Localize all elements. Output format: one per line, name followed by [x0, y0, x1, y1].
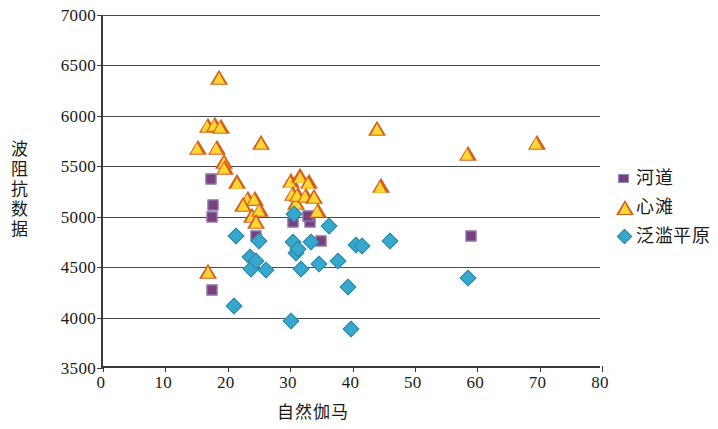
data-point-diamond [225, 298, 242, 315]
x-axis-tick-label: 50 [388, 374, 438, 391]
x-axis-tick [165, 366, 166, 372]
y-axis-tick-label: 6500 [26, 57, 96, 74]
x-axis-tick [290, 366, 291, 372]
square-marker-icon-shape [618, 174, 629, 183]
y-axis-title-char: 波 [8, 140, 30, 160]
data-point-triangle [372, 178, 390, 193]
data-point-triangle [199, 264, 217, 279]
y-axis-tick [97, 15, 103, 16]
y-axis-title-char: 数 [8, 200, 30, 220]
y-axis-tick-label: 5000 [26, 208, 96, 225]
x-axis-tick [228, 366, 229, 372]
x-axis-tick-label: 0 [76, 374, 126, 391]
y-axis-tick-label: 5500 [26, 158, 96, 175]
legend-item-label: 心滩 [636, 198, 673, 216]
y-axis-tick-label: 4500 [26, 259, 96, 276]
data-point-diamond [343, 320, 360, 337]
square-marker-icon [616, 169, 634, 187]
data-point-triangle [228, 174, 246, 189]
legend-item-1[interactable]: 心滩 [616, 192, 716, 221]
data-point-square [205, 174, 216, 185]
scatter-chart: 70006500600055005000450040003500 波阻抗数据 0… [0, 0, 718, 429]
data-point-triangle [216, 160, 234, 175]
x-axis-tick [477, 366, 478, 372]
data-point-square [206, 285, 217, 296]
data-point-square [207, 211, 218, 222]
y-axis-tick [97, 116, 103, 117]
x-axis-tick-label: 60 [450, 374, 500, 391]
gridline [103, 318, 600, 319]
gridline [103, 116, 600, 117]
x-axis-title: 自然伽马 [0, 398, 718, 423]
x-axis-title-text: 自然伽马 [277, 398, 349, 423]
data-point-triangle [459, 146, 477, 161]
data-point-triangle [252, 135, 270, 150]
gridline [103, 217, 600, 218]
x-axis-tick [602, 366, 603, 372]
y-axis-tick-label: 7000 [26, 7, 96, 24]
data-point-triangle [210, 69, 228, 84]
diamond-marker-icon-shape [617, 228, 633, 244]
data-point-diamond [321, 217, 338, 234]
x-axis-tick [353, 366, 354, 372]
data-point-triangle [305, 188, 323, 203]
data-point-triangle [247, 214, 265, 229]
data-point-square [207, 199, 218, 210]
y-axis-tick [97, 65, 103, 66]
legend-item-0[interactable]: 河道 [616, 163, 716, 192]
gridline [103, 65, 600, 66]
diamond-marker-icon [616, 227, 634, 245]
data-point-diamond [381, 232, 398, 249]
y-axis-tick-label: 6000 [26, 107, 96, 124]
x-axis-tick [103, 366, 104, 372]
legend-item-2[interactable]: 泛滥平原 [616, 221, 716, 250]
triangle-marker-icon [616, 198, 634, 216]
y-axis-title-char: 据 [8, 220, 30, 240]
plot-area [101, 15, 600, 368]
gridline [103, 166, 600, 167]
x-axis-tick-label: 40 [326, 374, 376, 391]
chart-legend: 河道心滩泛滥平原 [616, 163, 716, 250]
data-point-triangle [208, 140, 226, 155]
x-axis-tick-label: 10 [138, 374, 188, 391]
x-axis-tick-label: 20 [201, 374, 251, 391]
y-axis-tick [97, 217, 103, 218]
y-axis-title-char: 抗 [8, 180, 30, 200]
data-point-triangle [368, 121, 386, 136]
y-axis-title: 波阻抗数据 [8, 140, 30, 240]
data-point-square [466, 231, 477, 242]
y-axis-tick [97, 318, 103, 319]
data-point-diamond [459, 270, 476, 287]
gridline [103, 267, 600, 268]
data-point-triangle [528, 135, 546, 150]
data-point-triangle [212, 119, 230, 134]
triangle-marker-icon-shape [616, 200, 634, 215]
legend-item-label: 泛滥平原 [636, 227, 710, 245]
x-axis-tick [540, 366, 541, 372]
data-point-triangle [189, 140, 207, 155]
legend-item-label: 河道 [636, 169, 673, 187]
data-point-diamond [293, 261, 310, 278]
x-axis-tick-label: 80 [575, 374, 625, 391]
y-axis-tick [97, 166, 103, 167]
gridline [103, 15, 600, 16]
x-axis-tick-label: 30 [263, 374, 313, 391]
data-point-diamond [227, 227, 244, 244]
y-axis-tick [97, 267, 103, 268]
data-point-diamond [283, 312, 300, 329]
data-point-diamond [339, 279, 356, 296]
data-point-diamond [310, 256, 327, 273]
x-axis-tick [415, 366, 416, 372]
y-axis-tick-label: 4000 [26, 309, 96, 326]
x-axis-tick-label: 70 [513, 374, 563, 391]
data-point-triangle [309, 202, 327, 217]
y-axis-title-char: 阻 [8, 160, 30, 180]
